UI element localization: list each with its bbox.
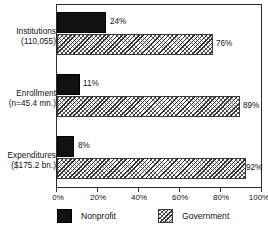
bar-government-enrollment [57, 96, 240, 117]
category-label-line2: (110,055) [0, 37, 56, 47]
legend-swatch-government-icon [158, 209, 173, 223]
category-label-line1: Expenditures [8, 151, 56, 160]
x-tick-mark-80 [220, 188, 221, 192]
plot-area [56, 4, 262, 188]
x-tick-mark-60 [179, 188, 180, 192]
value-label-government-expenditures: 92% [246, 163, 262, 173]
x-tick-mark-0 [56, 188, 57, 192]
legend-swatch-nonprofit-icon [57, 209, 72, 223]
legend-item-nonprofit: Nonprofit [57, 209, 116, 223]
bar-nonprofit-institutions [57, 12, 106, 33]
bar-nonprofit-expenditures [57, 136, 74, 157]
x-tick-mark-40 [138, 188, 139, 192]
category-label-enrollment: Enrollment (n=45.4 mn.) [0, 89, 56, 108]
legend-label-government: Government [182, 211, 229, 221]
category-label-line1: Institutions [16, 27, 56, 36]
bar-government-expenditures [57, 158, 246, 179]
category-label-line2: (n=45.4 mn.) [0, 99, 56, 109]
horizontal-bar-chart: Institutions (110,055) Enrollment (n=45.… [0, 0, 268, 232]
value-label-government-enrollment: 89% [243, 101, 259, 111]
x-tick-label-100: 100% [249, 193, 268, 203]
value-label-nonprofit-expenditures: 8% [78, 141, 90, 151]
chart-legend: Nonprofit Government [0, 209, 268, 231]
x-tick-label-80: 80% [213, 193, 229, 203]
x-tick-label-0: 0% [52, 193, 64, 203]
bar-government-institutions [57, 34, 213, 55]
x-tick-label-40: 40% [131, 193, 147, 203]
category-label-expenditures: Expenditures ($175.2 bn.) [0, 151, 56, 170]
value-label-nonprofit-institutions: 24% [110, 17, 126, 27]
category-label-line2: ($175.2 bn.) [0, 161, 56, 171]
category-label-institutions: Institutions (110,055) [0, 27, 56, 46]
x-tick-mark-100 [261, 188, 262, 192]
x-tick-label-20: 20% [90, 193, 106, 203]
x-tick-label-60: 60% [172, 193, 188, 203]
value-label-nonprofit-enrollment: 11% [83, 79, 99, 89]
category-label-line1: Enrollment [16, 89, 56, 98]
value-label-government-institutions: 76% [216, 39, 232, 49]
legend-item-government: Government [158, 209, 229, 223]
bar-nonprofit-enrollment [57, 74, 80, 95]
legend-label-nonprofit: Nonprofit [81, 211, 116, 221]
x-tick-mark-20 [97, 188, 98, 192]
